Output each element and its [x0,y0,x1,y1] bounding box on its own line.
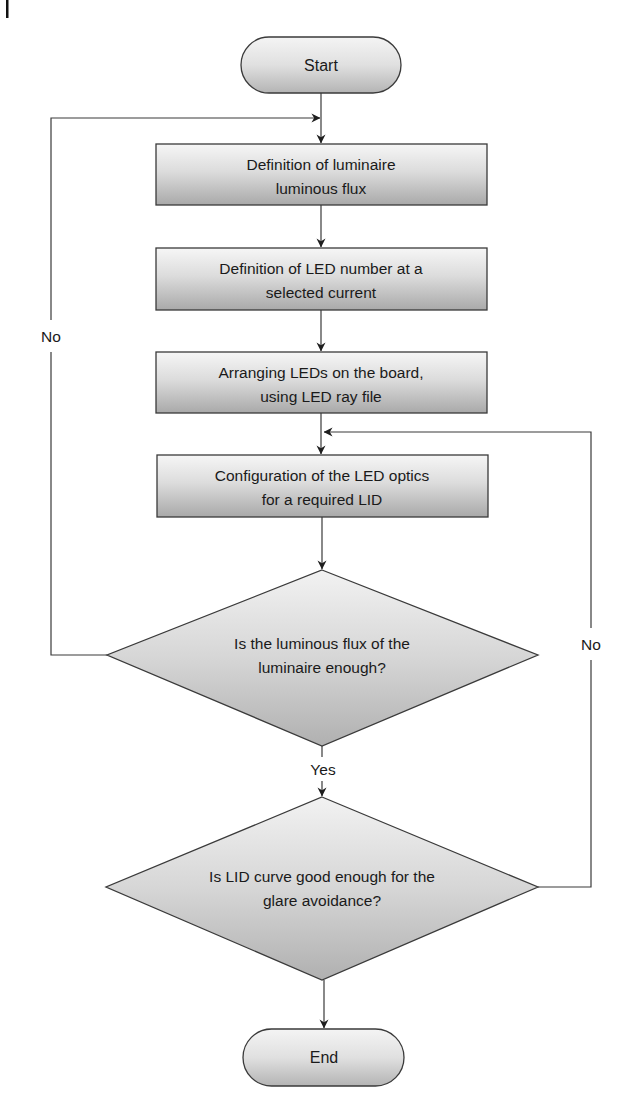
decision-1-yes-label: Yes [310,761,336,778]
decision-2-line2: glare avoidance? [263,892,381,909]
process-step-1: Definition of luminaire luminous flux [156,144,487,205]
step-4-line2: for a required LID [262,491,383,508]
start-label: Start [304,57,338,74]
step-4-line1: Configuration of the LED optics [215,467,430,484]
end-terminal: End [243,1029,404,1086]
step-1-line2: luminous flux [276,180,367,197]
step-2-line1: Definition of LED number at a [219,260,423,277]
decision-1-line1: Is the luminous flux of the [234,635,410,652]
start-terminal: Start [241,37,401,93]
step-2-line2: selected current [266,284,377,301]
step-3-line1: Arranging LEDs on the board, [218,364,423,381]
decision-2-line1: Is LID curve good enough for the [209,868,435,885]
step-1-line1: Definition of luminaire [246,156,395,173]
end-label: End [310,1049,338,1066]
process-step-2: Definition of LED number at a selected c… [156,248,487,310]
decision-1-line2: luminaire enough? [258,659,386,676]
page-margin-mark [6,0,9,18]
connector-decision1-no-loop [51,352,107,655]
decision-2-lid-curve: Is LID curve good enough for the glare a… [106,797,538,980]
decision-2-no-label: No [581,636,601,653]
decision-1-no-label: No [41,328,61,345]
process-step-4: Configuration of the LED optics for a re… [157,455,488,517]
connector-decision2-no-loop-lower [538,660,591,887]
flowchart-canvas: Start Definition of luminaire luminous f… [0,0,636,1114]
decision-1-luminous-flux: Is the luminous flux of the luminaire en… [107,570,538,746]
process-step-3: Arranging LEDs on the board, using LED r… [156,352,487,413]
step-3-line2: using LED ray file [260,388,381,405]
